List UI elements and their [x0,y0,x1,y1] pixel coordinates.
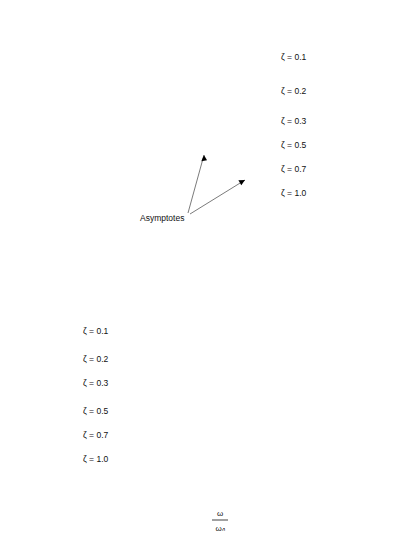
legend-item-phase-zeta-0-1: ζ = 0.1 [83,326,109,336]
x-axis-title: ω ωₙ [212,509,228,533]
asymptote-leader-1 [188,155,204,213]
legend-item-phase-zeta-0-5: ζ = 0.5 [83,406,109,416]
asymptotes-annotation-label: Asymptotes [140,213,184,223]
bode-plot-canvas: ζ = 0.1 ζ = 0.2 ζ = 0.3 ζ = 0.5 ζ = 0.7 … [0,0,413,543]
legend-item-phase-zeta-1-0: ζ = 1.0 [83,454,109,464]
legend-item-mag-zeta-0-2: ζ = 0.2 [281,86,307,96]
asymptote-arrowhead-1 [201,155,207,161]
legend-item-phase-zeta-0-3: ζ = 0.3 [83,378,109,388]
legend-item-phase-zeta-0-7: ζ = 0.7 [83,430,109,440]
legend-item-mag-zeta-0-5: ζ = 0.5 [281,140,307,150]
legend-item-mag-zeta-1-0: ζ = 1.0 [281,188,307,198]
legend-item-mag-zeta-0-1: ζ = 0.1 [281,52,307,62]
legend-item-phase-zeta-0-2: ζ = 0.2 [83,354,109,364]
x-axis-title-denominator: ωₙ [215,524,224,533]
bode-plot-figure: ζ = 0.1 ζ = 0.2 ζ = 0.3 ζ = 0.5 ζ = 0.7 … [0,0,413,543]
legend-item-mag-zeta-0-7: ζ = 0.7 [281,164,307,174]
legend-item-mag-zeta-0-3: ζ = 0.3 [281,116,307,126]
x-axis-title-numerator: ω [217,509,223,518]
asymptote-leader-2 [190,180,245,214]
magnitude-legend: ζ = 0.1 ζ = 0.2 ζ = 0.3 ζ = 0.5 ζ = 0.7 … [281,52,307,198]
asymptote-arrowhead-2 [238,180,245,185]
asymptotes-annotation: Asymptotes [140,155,245,223]
phase-legend: ζ = 0.1 ζ = 0.2 ζ = 0.3 ζ = 0.5 ζ = 0.7 … [83,326,109,464]
